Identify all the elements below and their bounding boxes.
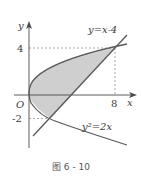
x-axis-label: x [127, 97, 133, 108]
figure-diagram: y x O 4 8 -2 y=x-4 y²=2x 图 6 - 10 [0, 0, 141, 183]
line-equation-label: y=x-4 [87, 24, 117, 35]
parabola-equation-label: y²=2x [81, 121, 112, 132]
figure-caption: 图 6 - 10 [52, 162, 90, 172]
y-axis-label: y [17, 20, 24, 31]
origin-label: O [16, 99, 24, 110]
tick-label-y4: 4 [17, 43, 23, 54]
tick-label-x8: 8 [111, 98, 117, 109]
tick-label-yneg2: -2 [12, 113, 22, 124]
